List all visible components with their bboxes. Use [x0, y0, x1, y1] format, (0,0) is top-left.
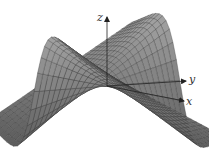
- surface-mesh: [0, 13, 209, 147]
- z-axis-label: z: [97, 12, 103, 23]
- surface-plot: [0, 0, 209, 156]
- x-axis-label: x: [186, 96, 192, 107]
- y-axis-label: y: [189, 74, 195, 85]
